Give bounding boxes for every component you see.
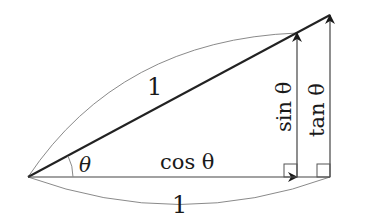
tan-label: tan θ (305, 83, 329, 137)
angle-label: θ (79, 153, 91, 177)
trig-diagram: 1 θ cos θ 1 sin θ tan θ (0, 0, 373, 221)
base-label: 1 (172, 191, 187, 219)
right-angle-marker-tan (317, 164, 330, 177)
cos-label: cos θ (160, 150, 215, 174)
right-angle-marker-sin (284, 164, 297, 177)
hypotenuse-label: 1 (147, 73, 162, 101)
sin-label: sin θ (272, 82, 296, 132)
angle-arc (68, 156, 73, 177)
